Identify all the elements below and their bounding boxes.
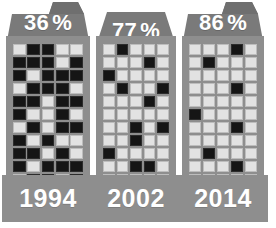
window-cell <box>189 96 201 107</box>
window-grid-2014 <box>189 44 257 185</box>
window-cell <box>27 96 40 107</box>
window-cell <box>245 135 257 146</box>
window-cell <box>56 122 69 133</box>
window-cell <box>42 135 55 146</box>
window-cell <box>42 122 55 133</box>
window-cell <box>70 57 83 68</box>
window-cell <box>189 161 201 172</box>
window-cell <box>217 83 229 94</box>
window-cell <box>56 135 69 146</box>
window-cell <box>189 57 201 68</box>
year-label-2014: 2014 <box>194 186 252 211</box>
window-cell <box>245 44 257 55</box>
window-grid-2002 <box>103 44 169 185</box>
window-cell <box>231 135 243 146</box>
window-cell <box>117 70 129 81</box>
window-cell <box>130 122 142 133</box>
building-1994: 36 % 1994 <box>6 0 90 228</box>
building-2002: 77 % 2002 <box>96 0 176 228</box>
window-cell <box>157 83 169 94</box>
window-cell <box>103 70 115 81</box>
window-cell <box>130 161 142 172</box>
window-cell <box>144 44 156 55</box>
window-cell <box>117 122 129 133</box>
window-cell <box>56 96 69 107</box>
window-cell <box>203 57 215 68</box>
window-cell <box>157 148 169 159</box>
window-cell <box>245 122 257 133</box>
window-cell <box>13 70 26 81</box>
window-cell <box>27 161 40 172</box>
window-cell <box>117 57 129 68</box>
window-cell <box>144 57 156 68</box>
window-cell <box>245 57 257 68</box>
window-cell <box>144 109 156 120</box>
window-cell <box>189 83 201 94</box>
window-cell <box>189 70 201 81</box>
window-cell <box>130 57 142 68</box>
window-cell <box>130 96 142 107</box>
window-cell <box>245 83 257 94</box>
window-cell <box>42 96 55 107</box>
window-cell <box>231 161 243 172</box>
window-cell <box>27 109 40 120</box>
window-cell <box>157 57 169 68</box>
window-cell <box>27 57 40 68</box>
window-cell <box>231 122 243 133</box>
building-2014: 86 % 2014 <box>182 0 264 228</box>
window-cell <box>231 57 243 68</box>
window-cell <box>13 135 26 146</box>
window-cell <box>27 135 40 146</box>
window-cell <box>42 161 55 172</box>
window-cell <box>103 122 115 133</box>
window-cell <box>103 135 115 146</box>
window-cell <box>217 44 229 55</box>
window-cell <box>117 148 129 159</box>
window-cell <box>117 135 129 146</box>
window-cell <box>144 122 156 133</box>
window-cell <box>27 83 40 94</box>
window-cell <box>42 57 55 68</box>
window-cell <box>203 161 215 172</box>
window-cell <box>217 109 229 120</box>
window-cell <box>189 122 201 133</box>
window-cell <box>203 148 215 159</box>
window-cell <box>217 96 229 107</box>
window-cell <box>42 83 55 94</box>
window-cell <box>144 135 156 146</box>
window-cell <box>231 96 243 107</box>
window-cell <box>144 161 156 172</box>
window-cell <box>70 44 83 55</box>
window-cell <box>27 122 40 133</box>
window-cell <box>157 96 169 107</box>
window-cell <box>130 70 142 81</box>
tower-body-2002 <box>96 36 176 184</box>
window-cell <box>144 70 156 81</box>
window-cell <box>117 96 129 107</box>
window-cell <box>56 148 69 159</box>
window-cell <box>189 109 201 120</box>
window-cell <box>103 44 115 55</box>
window-cell <box>203 122 215 133</box>
window-cell <box>217 70 229 81</box>
window-cell <box>203 70 215 81</box>
window-cell <box>144 148 156 159</box>
window-cell <box>27 70 40 81</box>
window-cell <box>189 148 201 159</box>
window-cell <box>103 83 115 94</box>
window-cell <box>13 96 26 107</box>
window-cell <box>70 70 83 81</box>
window-cell <box>245 96 257 107</box>
year-label-1994: 1994 <box>19 186 77 211</box>
window-cell <box>56 83 69 94</box>
window-cell <box>217 148 229 159</box>
year-label-2002: 2002 <box>107 186 165 211</box>
window-cell <box>42 148 55 159</box>
window-cell <box>103 109 115 120</box>
window-cell <box>13 161 26 172</box>
window-cell <box>13 83 26 94</box>
window-cell <box>231 83 243 94</box>
window-cell <box>117 161 129 172</box>
window-cell <box>70 83 83 94</box>
window-cell <box>70 122 83 133</box>
